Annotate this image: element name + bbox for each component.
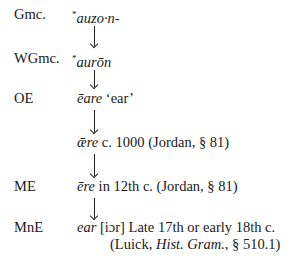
stage-form-mne: ear [iɔr] Late 17th or early 18th c.: [77, 219, 275, 235]
form-text: ear: [77, 219, 96, 235]
arrow-down-icon: [94, 198, 95, 218]
stage-label-gmc: Gmc.: [14, 6, 46, 22]
stage-label-me: ME: [14, 178, 36, 194]
form-text: ēre: [77, 178, 95, 194]
note-text: c. 1000 (Jordan, § 81): [102, 134, 229, 150]
arrow-down-icon: [94, 110, 95, 132]
stage-form-oe: ēare ‘ear’: [77, 90, 134, 106]
arrow-down-icon: [94, 154, 95, 176]
citation-close: , § 510.1): [225, 236, 281, 252]
note-text: in 12th c. (Jordan, § 81): [99, 178, 238, 194]
arrow-down-icon: [94, 70, 95, 87]
gloss-text: ‘ear’: [106, 90, 134, 106]
citation-luick: (Luick, Hist. Gram., § 510.1): [110, 236, 280, 252]
stage-label-oe: OE: [14, 90, 33, 106]
arrow-down-icon: [94, 26, 95, 46]
stage-form-wgmc: *aurōn: [72, 50, 111, 70]
stage-form-late-oe: ǣre c. 1000 (Jordan, § 81): [77, 134, 229, 150]
stage-form-me: ēre in 12th c. (Jordan, § 81): [77, 178, 238, 194]
form-text: aurōn: [77, 54, 112, 70]
stage-label-mne: MnE: [14, 219, 43, 235]
citation-title: Hist. Gram.: [156, 236, 225, 252]
citation-open: (Luick,: [110, 236, 156, 252]
stage-label-wgmc: WGmc.: [14, 50, 60, 66]
stage-form-gmc: *auzo·n-: [72, 6, 120, 26]
form-text: ēare: [77, 90, 102, 106]
note-text: [iɔr] Late 17th or early 18th c.: [100, 219, 275, 235]
form-text: auzo·n-: [77, 10, 120, 26]
form-text: ǣre: [77, 134, 98, 150]
